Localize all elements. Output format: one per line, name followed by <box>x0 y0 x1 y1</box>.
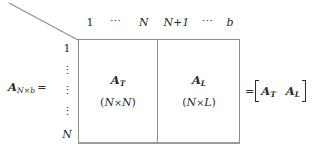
block-al-paren-close: ) <box>211 96 215 109</box>
block-at-dimension: (N×N) <box>100 96 136 109</box>
block-at-subscript: T <box>120 79 126 88</box>
block-al-dimension: (N×L) <box>182 96 216 109</box>
block-at-name: AT <box>111 73 126 87</box>
lhs-matrix-label: A N×b = <box>8 80 46 94</box>
rhs-bracket-open-icon <box>255 80 259 102</box>
column-ellipsis-left: ⋯ <box>110 15 122 28</box>
column-header-row: 1 ⋯ N N+1 ⋯ b <box>78 14 240 30</box>
block-at-dim-rows: N <box>104 96 114 109</box>
rhs-block-at-subscript: T <box>270 90 276 99</box>
block-at-symbol: A <box>111 73 120 87</box>
lhs-equals-sign: = <box>37 81 46 94</box>
rhs-block-al-subscript: L <box>295 90 300 99</box>
rhs-block-list: AT AL <box>261 84 300 98</box>
row-label-last: N <box>62 128 72 141</box>
column-header-group-left: 1 ⋯ N <box>78 14 157 30</box>
row-vdots-1: ⋮ <box>62 67 73 75</box>
block-al-name: AL <box>192 73 206 87</box>
column-label-first-right: N+1 <box>163 16 189 29</box>
row-vdots-3: ⋮ <box>62 108 73 116</box>
rhs-block-al-symbol: A <box>286 84 295 98</box>
lhs-matrix-symbol: A <box>8 80 17 94</box>
column-label-last-left: N <box>139 16 149 29</box>
block-at-dim-times: × <box>114 97 122 108</box>
rhs-block-at-symbol: A <box>261 84 270 98</box>
rhs-block-al: AL <box>286 84 300 98</box>
matrix-partition-figure: 1 ⋯ N N+1 ⋯ b 1 ⋮ ⋮ ⋮ N A N×b = AT (N×N) <box>0 0 329 151</box>
block-al-subscript: L <box>201 79 206 88</box>
rhs-bracket-close-icon <box>302 80 306 102</box>
row-label-column: 1 ⋮ ⋮ ⋮ N <box>58 39 76 143</box>
block-at-paren-close: ) <box>132 96 136 109</box>
row-label-first: 1 <box>64 42 71 55</box>
column-label-last-right: b <box>226 16 233 29</box>
rhs-block-at: AT <box>261 84 276 98</box>
block-al-symbol: A <box>192 73 201 87</box>
rhs-expression: = AT AL <box>245 79 306 103</box>
matrix-block-al: AL (N×L) <box>158 39 240 143</box>
column-header-group-right: N+1 ⋯ b <box>157 14 240 30</box>
column-ellipsis-right: ⋯ <box>202 15 214 28</box>
rhs-equals-sign: = <box>245 85 254 98</box>
lhs-matrix-subscript: N×b <box>17 86 35 95</box>
row-vdots-2: ⋮ <box>62 87 73 95</box>
column-label-first-left: 1 <box>86 16 93 29</box>
block-al-dim-rows: N <box>187 96 197 109</box>
block-al-dim-times: × <box>196 97 204 108</box>
matrix-block-at: AT (N×N) <box>79 39 157 143</box>
block-at-dim-cols: N <box>122 96 132 109</box>
diagonal-pointer-line <box>0 0 90 44</box>
